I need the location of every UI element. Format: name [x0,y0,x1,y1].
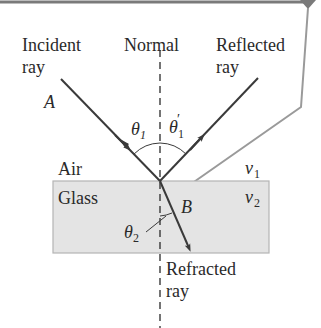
theta2-symbol: θ [124,222,133,242]
incident-label-line2: ray [22,57,45,77]
v1-symbol: v [245,158,253,178]
glass-label: Glass [58,188,98,208]
theta1-symbol: θ [131,119,140,139]
theta1-prime-mark: ′ [177,112,180,127]
callout-pointer-icon [300,0,316,9]
theta1-prime-arc [160,143,186,154]
callout-top-bar [0,0,316,9]
reflected-arrowhead [190,137,202,150]
air-label: Air [58,159,82,179]
reflection-refraction-diagram: Incident ray Normal Reflected ray A θ 1 … [0,0,321,328]
reflected-label-line2: ray [216,57,239,77]
reflected-label-line1: Reflected [216,35,285,55]
refracted-label-line2: ray [166,281,189,301]
theta1-prime-subscript: 1 [178,127,184,141]
v1-subscript: 1 [254,167,260,181]
incident-label-line1: Incident [22,35,81,55]
theta1-arc [134,143,160,154]
theta1-subscript: 1 [140,128,146,142]
point-a-label: A [43,92,56,112]
normal-label: Normal [124,35,179,55]
incident-arrowhead [115,135,128,148]
v2-symbol: v [245,187,253,207]
v2-subscript: 2 [254,196,260,210]
theta2-subscript: 2 [133,231,139,245]
point-b-label: B [181,197,192,217]
refracted-label-line1: Refracted [166,259,236,279]
